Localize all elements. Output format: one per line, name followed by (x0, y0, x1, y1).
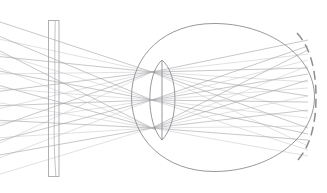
light-ray (152, 126, 308, 128)
light-ray (152, 110, 308, 128)
light-ray (0, 120, 155, 128)
light-ray (0, 127, 155, 156)
display-panel (49, 21, 60, 177)
display-panel-inner-line (54, 21, 56, 176)
optical-diagram-canvas (0, 0, 327, 193)
light-ray (152, 66, 308, 128)
light-ray (152, 100, 308, 150)
light-ray (152, 54, 308, 72)
ray-diagram-svg (0, 0, 327, 193)
retina-arc (297, 33, 316, 161)
light-ray (0, 56, 155, 72)
light-ray (152, 50, 308, 128)
light-ray (152, 128, 308, 156)
light-ray (152, 68, 308, 72)
light-ray (0, 128, 155, 138)
light-ray (0, 72, 155, 74)
light-ray (152, 100, 308, 118)
display-panel-group (49, 21, 60, 177)
light-ray (152, 72, 308, 96)
light-ray (0, 38, 155, 73)
outgoing-ray-group (152, 40, 308, 156)
light-ray (152, 100, 308, 134)
light-ray (152, 128, 308, 140)
